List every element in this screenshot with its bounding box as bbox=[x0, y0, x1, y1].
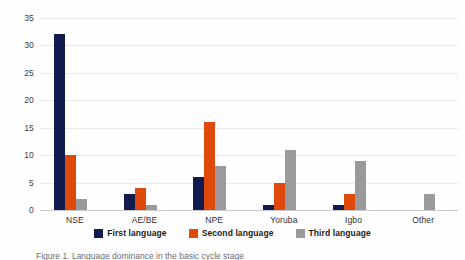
y-axis-tick-label: 30 bbox=[24, 40, 34, 50]
bar bbox=[54, 34, 65, 210]
legend-label: Second language bbox=[202, 228, 274, 238]
x-axis-tick-label: Other bbox=[388, 215, 458, 225]
legend-item[interactable]: Second language bbox=[189, 228, 274, 238]
bar bbox=[146, 205, 157, 210]
y-axis-tick-label: 10 bbox=[24, 150, 34, 160]
bar bbox=[76, 199, 87, 210]
bar-group: NSE bbox=[40, 18, 110, 210]
bar-group: Yoruba bbox=[249, 18, 319, 210]
x-axis-tick-label: NPE bbox=[179, 215, 249, 225]
chart-legend: First languageSecond languageThird langu… bbox=[0, 228, 465, 238]
bar-cluster bbox=[333, 161, 366, 210]
figure-caption: Figure 1. Language dominance in the basi… bbox=[36, 251, 456, 260]
bar bbox=[285, 150, 296, 210]
y-axis-tick-label: 35 bbox=[24, 13, 34, 23]
bar bbox=[215, 166, 226, 210]
legend-item[interactable]: First language bbox=[94, 228, 167, 238]
bar-group: Igbo bbox=[319, 18, 389, 210]
x-axis-tick-label: Yoruba bbox=[249, 215, 319, 225]
bar bbox=[135, 188, 146, 210]
bar-cluster bbox=[124, 188, 157, 210]
x-axis-tick-label: Igbo bbox=[319, 215, 389, 225]
legend-item[interactable]: Third language bbox=[296, 228, 371, 238]
bar-cluster bbox=[54, 34, 87, 210]
y-axis-tick-label: 0 bbox=[29, 205, 34, 215]
legend-label: First language bbox=[107, 228, 167, 238]
legend-label: Third language bbox=[309, 228, 371, 238]
bar-group: Other bbox=[388, 18, 458, 210]
bar-group: AE/BE bbox=[110, 18, 180, 210]
bar bbox=[274, 183, 285, 210]
bar bbox=[124, 194, 135, 210]
legend-swatch-icon bbox=[296, 229, 305, 238]
legend-swatch-icon bbox=[94, 229, 103, 238]
bar bbox=[65, 155, 76, 210]
bar bbox=[204, 122, 215, 210]
bar-cluster bbox=[402, 194, 435, 210]
x-axis-tick-label: NSE bbox=[40, 215, 110, 225]
bar bbox=[263, 205, 274, 210]
bar-cluster bbox=[193, 122, 226, 210]
y-axis-tick-label: 15 bbox=[24, 123, 34, 133]
y-axis-tick-label: 20 bbox=[24, 95, 34, 105]
bar bbox=[333, 205, 344, 210]
chart-figure: 05101520253035 NSEAE/BENPEYorubaIgboOthe… bbox=[0, 0, 465, 260]
bar-group: NPE bbox=[179, 18, 249, 210]
bar-cluster bbox=[263, 150, 296, 210]
x-axis-tick-label: AE/BE bbox=[110, 215, 180, 225]
legend-swatch-icon bbox=[189, 229, 198, 238]
bar bbox=[355, 161, 366, 210]
bar bbox=[193, 177, 204, 210]
bar bbox=[344, 194, 355, 210]
bar bbox=[424, 194, 435, 210]
bar-groups: NSEAE/BENPEYorubaIgboOther bbox=[40, 18, 458, 210]
plot-area: 05101520253035 NSEAE/BENPEYorubaIgboOthe… bbox=[40, 18, 458, 210]
y-axis-tick-label: 25 bbox=[24, 68, 34, 78]
y-axis-tick-label: 5 bbox=[29, 178, 34, 188]
axis-baseline: 0 bbox=[40, 210, 458, 211]
